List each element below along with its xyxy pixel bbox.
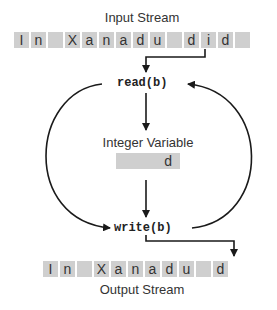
- left-loop-arrow: [46, 84, 110, 228]
- input-cell: [167, 32, 182, 48]
- input-cell: n: [99, 32, 114, 48]
- integer-variable-box: d: [116, 153, 180, 169]
- right-loop-arrow: [188, 84, 252, 228]
- input-cell: a: [82, 32, 97, 48]
- output-cell: d: [162, 261, 177, 277]
- output-cell: [77, 261, 92, 277]
- output-cell: n: [128, 261, 143, 277]
- input-cell: a: [116, 32, 131, 48]
- input-cell: n: [31, 32, 46, 48]
- input-cell: u: [150, 32, 165, 48]
- output-cell: [196, 261, 211, 277]
- input-cell: [235, 32, 250, 48]
- output-stream-label: Output Stream: [92, 282, 192, 297]
- input-cell: d: [184, 32, 199, 48]
- input-to-read-arrow: [146, 49, 205, 72]
- input-cell: I: [14, 32, 29, 48]
- output-cell: X: [94, 261, 109, 277]
- integer-variable-label: Integer Variable: [96, 135, 200, 150]
- output-cell: d: [213, 261, 228, 277]
- output-cell: I: [43, 261, 58, 277]
- output-cell: a: [111, 261, 126, 277]
- write-to-output-arrow: [146, 235, 234, 256]
- read-call: read(b): [117, 76, 167, 90]
- input-stream-row: I n X a n a d u d i d: [14, 32, 250, 48]
- input-cell: X: [65, 32, 80, 48]
- output-stream-row: I n X a n a d u d: [43, 261, 228, 277]
- input-cell: d: [218, 32, 233, 48]
- input-cell: [48, 32, 63, 48]
- input-stream-label: Input Stream: [0, 10, 277, 25]
- output-cell: n: [60, 261, 75, 277]
- input-cell: d: [133, 32, 148, 48]
- output-cell: u: [179, 261, 194, 277]
- output-cell: a: [145, 261, 160, 277]
- write-call: write(b): [114, 221, 172, 235]
- input-cell: i: [201, 32, 216, 48]
